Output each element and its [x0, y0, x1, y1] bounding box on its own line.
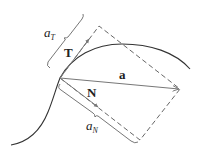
dashed-parallelogram — [60, 26, 180, 140]
tangent-label: T — [64, 45, 73, 60]
normal-label: N — [87, 85, 97, 100]
tangential-component-label: aT — [44, 25, 56, 42]
normal-bracket — [59, 84, 138, 143]
acceleration-label: a — [119, 67, 126, 82]
acceleration-diagram: T N a aT aN — [0, 0, 202, 161]
path-curve — [11, 44, 190, 145]
normal-component-label: aN — [86, 118, 99, 135]
